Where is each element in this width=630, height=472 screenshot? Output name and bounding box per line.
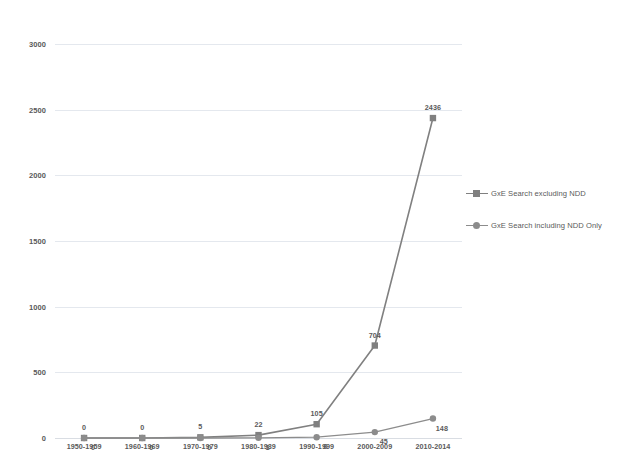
line-chart: 050010001500200025003000 005221057042436… xyxy=(0,0,630,472)
x-tick-label-1970-1979: 1970-1979 xyxy=(183,442,218,451)
legend-label-0: GxE Search excluding NDD xyxy=(491,189,586,198)
legend-item-1[interactable]: GxE Search including NDD Only xyxy=(466,218,626,232)
x-tick-label-1950-1959: 1950-1959 xyxy=(67,442,102,451)
x-tick-label-2010-2014: 2010-2014 xyxy=(416,442,451,451)
legend-item-0[interactable]: GxE Search excluding NDD xyxy=(466,186,626,200)
x-tick-label-1990-1999: 1990-1999 xyxy=(299,442,334,451)
legend-label-1: GxE Search including NDD Only xyxy=(491,221,602,230)
legend-square-icon xyxy=(466,188,488,198)
chart-legend: GxE Search excluding NDDGxE Search inclu… xyxy=(466,186,626,250)
legend-circle-icon xyxy=(466,220,488,230)
x-tick-label-1980-1989: 1980-1989 xyxy=(241,442,276,451)
x-tick-label-2000-2009: 2000-2009 xyxy=(357,442,392,451)
x-tick-label-1960-1969: 1960-1969 xyxy=(125,442,160,451)
